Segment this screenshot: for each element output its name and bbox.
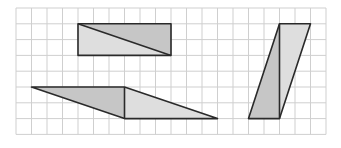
grid-canvas	[0, 0, 341, 148]
grid-diagram	[0, 0, 341, 148]
rectangle-split-diagonal	[78, 24, 171, 56]
